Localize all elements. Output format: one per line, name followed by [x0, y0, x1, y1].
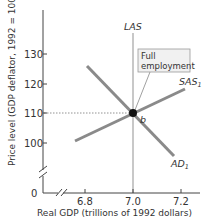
ad-label: AD1 — [170, 158, 189, 171]
las-label: LAS — [124, 21, 142, 32]
y-axis-title: Price level (GDP deflator, 1992 = 100) — [7, 0, 17, 166]
x-axis-title: Real GDP (trillions of 1992 dollars) — [37, 208, 192, 218]
y-tick-100: 100 — [24, 138, 43, 149]
y-tick-120: 120 — [24, 79, 43, 90]
full-employment-line2: employment — [141, 61, 195, 71]
x-tick-6-8: 6.8 — [77, 196, 93, 207]
y-axis-lower — [43, 176, 58, 193]
x-ticks — [85, 189, 181, 193]
y-tick-130: 130 — [24, 49, 43, 60]
callout-leader — [135, 72, 150, 110]
y-ticks — [43, 54, 47, 143]
origin-label: 0 — [31, 188, 37, 199]
x-tick-7-0: 7.0 — [125, 196, 141, 207]
chart: 130 120 110 100 0 6.8 7.0 7.2 Real GDP (… — [0, 0, 207, 219]
x-tick-7-2: 7.2 — [173, 196, 189, 207]
equilibrium-point-b — [129, 109, 137, 117]
y-tick-110: 110 — [24, 108, 43, 119]
point-b-label: b — [140, 114, 146, 125]
full-employment-line1: Full — [141, 51, 156, 61]
sas-label: SAS1 — [179, 76, 202, 89]
